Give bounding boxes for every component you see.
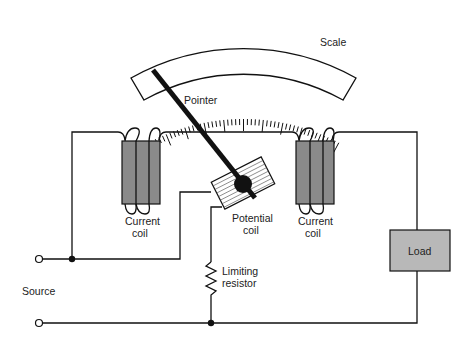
pointer <box>153 70 255 198</box>
terminal-bottom <box>36 320 43 327</box>
current-coil-right-label-1: Current <box>298 215 333 227</box>
scale-label: Scale <box>320 36 346 48</box>
limiting-resistor-label-1: Limiting <box>222 265 258 277</box>
potential-coil-label-2: coil <box>243 224 259 236</box>
current-coil-right-label-2: coil <box>305 227 321 239</box>
current-coil-left-label-1: Current <box>125 215 160 227</box>
current-coil-left <box>122 128 160 214</box>
circuit-wires <box>42 132 417 323</box>
junction-node <box>208 320 214 326</box>
junction-node <box>69 256 75 262</box>
scale <box>131 49 356 154</box>
source-label: Source <box>22 285 55 297</box>
load-label: Load <box>408 245 432 257</box>
terminal-top <box>36 256 43 263</box>
source-terminals <box>36 256 215 327</box>
pointer-label: Pointer <box>184 94 218 106</box>
potential-coil-label-1: Potential <box>232 212 273 224</box>
current-coil-left-label-2: coil <box>132 227 148 239</box>
limiting-resistor-label-2: resistor <box>222 277 257 289</box>
wattmeter-diagram: Scale Current coil Current coil <box>0 0 472 349</box>
current-coil-right <box>296 128 334 214</box>
